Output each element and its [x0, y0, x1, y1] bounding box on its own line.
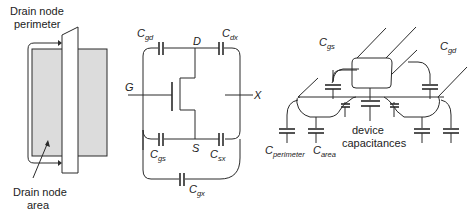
arrow-head-icon: [58, 40, 62, 46]
device-caps-label-line1: device: [352, 124, 384, 136]
cgd-3d-label: Cgd: [440, 40, 457, 55]
perimeter-label-line2: perimeter: [14, 18, 61, 30]
cperimeter-label: Cperimeter: [265, 144, 305, 159]
cgd-label: Cgd: [137, 27, 154, 42]
cgs-label: Cgs: [150, 148, 166, 163]
capacitance-figure: Drain node perimeter Drain node area D: [0, 0, 475, 216]
node-g-label: G: [125, 81, 134, 93]
gate-block: [352, 58, 392, 88]
node-x-label: X: [253, 89, 262, 101]
gate-strip: [62, 27, 78, 173]
arrow-head-icon: [58, 160, 62, 166]
area-label-line1: Drain node: [13, 186, 67, 198]
cross-section-panel: Cgs Cgd Cperimeter Carea device capacita…: [265, 27, 467, 159]
cgx-label: Cgx: [189, 183, 205, 198]
csx-label: Csx: [210, 148, 226, 163]
perimeter-label-line1: Drain node: [10, 5, 64, 17]
area-label-line2: area: [27, 199, 50, 211]
node-s-label: S: [192, 142, 200, 154]
node-d-label: D: [193, 35, 201, 47]
device-caps-label-line2: capacitances: [342, 137, 407, 149]
transistor-channel: [180, 78, 195, 139]
cdx-label: Cdx: [222, 27, 238, 42]
drain-layout-panel: Drain node perimeter Drain node area: [10, 5, 107, 211]
transistor-schematic-panel: D G S X Cgd Cdx Cgs Csx Cgx: [125, 27, 262, 198]
cgs-3d-label: Cgs: [319, 36, 335, 51]
carea-label: Carea: [313, 144, 336, 159]
